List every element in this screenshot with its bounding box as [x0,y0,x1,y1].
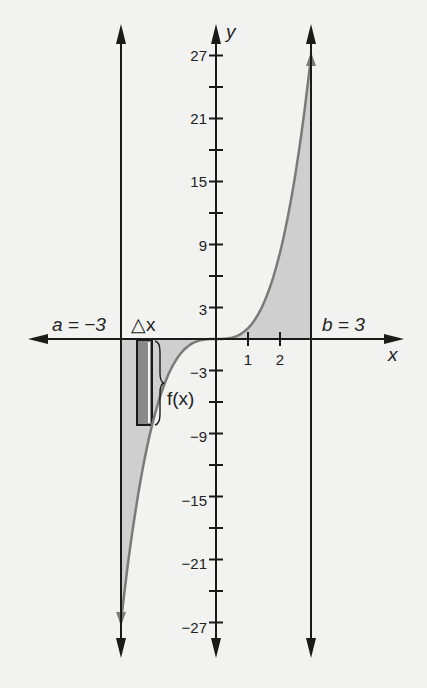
delta-x-label: △x [131,315,156,334]
x-axis-label: x [388,345,398,364]
y-tick-label-m15: −15 [167,493,207,508]
y-tick-label-m21: −21 [167,556,207,571]
y-tick-label-m3: −3 [167,365,207,380]
diagram-canvas [0,0,427,688]
riemann-sum-diagram: y x 27 21 15 9 3 −3 −9 −15 −21 −27 1 2 a… [0,0,427,688]
a-label-text: a = −3 [52,314,106,335]
b-label-text: b = 3 [322,314,365,335]
y-tick-label-m27: −27 [167,620,207,635]
y-tick-label-3: 3 [167,302,207,317]
a-equals-label: a = −3 [52,315,106,334]
x-tick-label-2: 2 [270,352,290,367]
y-tick-label-9: 9 [167,238,207,253]
x-tick-label-1: 1 [238,352,258,367]
y-axis [209,24,223,658]
y-tick-label-15: 15 [167,174,207,189]
y-tick-label-27: 27 [167,48,207,63]
b-equals-label: b = 3 [322,315,365,334]
fx-label: f(x) [167,389,194,408]
y-tick-label-21: 21 [167,111,207,126]
y-axis-label: y [226,22,236,41]
y-tick-label-m9: −9 [167,429,207,444]
riemann-rectangle [137,340,152,425]
